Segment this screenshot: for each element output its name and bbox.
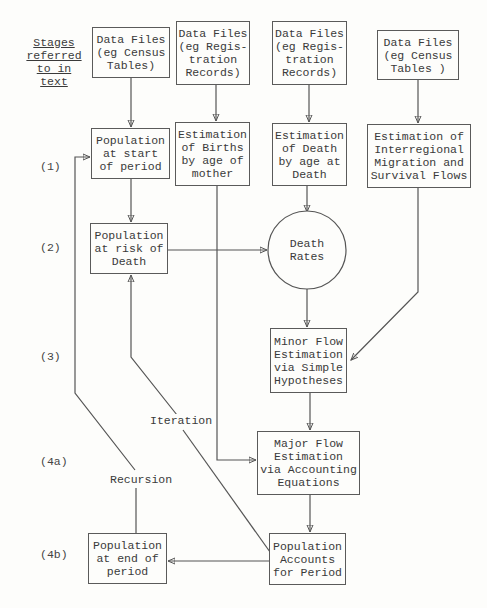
stages-header-line: to in text [20, 62, 88, 88]
iteration-label: Iteration [148, 414, 214, 427]
estimation-death-box: Estimation of Death by age at Death [272, 123, 347, 186]
stage-label-4b: (4b) [40, 548, 68, 561]
population-end-box: Population at end of period [88, 533, 167, 584]
stages-header: Stages referred to in text [20, 36, 88, 88]
estimation-migration-box: Estimation of Interregional Migration an… [367, 124, 471, 188]
stages-header-line: Stages [20, 36, 88, 49]
population-at-risk-box: Population at risk of Death [90, 223, 168, 274]
flow-connectors [0, 0, 487, 608]
death-rates-label: Death Rates [277, 237, 337, 263]
major-flow-box: Major Flow Estimation via Accounting Equ… [257, 431, 360, 495]
data-files-registration-box-births: Data Files (eg Regis- tration Records) [176, 21, 250, 85]
stage-label-4a: (4a) [40, 455, 68, 468]
recursion-label: Recursion [108, 473, 174, 486]
population-start-box: Population at start of period [91, 128, 170, 179]
population-accounts-box: Population Accounts for Period [269, 533, 346, 585]
stage-label-3: (3) [40, 350, 61, 363]
data-files-census-box-migration: Data Files (eg Census Tables ) [377, 30, 459, 80]
data-files-registration-box-deaths: Data Files (eg Regis- tration Records) [272, 21, 347, 85]
data-files-census-box: Data Files (eg Census Tables) [92, 27, 170, 78]
stage-label-1: (1) [40, 160, 61, 173]
stages-header-line: referred [20, 49, 88, 62]
stage-label-2: (2) [40, 241, 61, 254]
estimation-births-box: Estimation of Births by age of mother [175, 122, 250, 186]
minor-flow-box: Minor Flow Estimation via Simple Hypothe… [270, 328, 347, 393]
